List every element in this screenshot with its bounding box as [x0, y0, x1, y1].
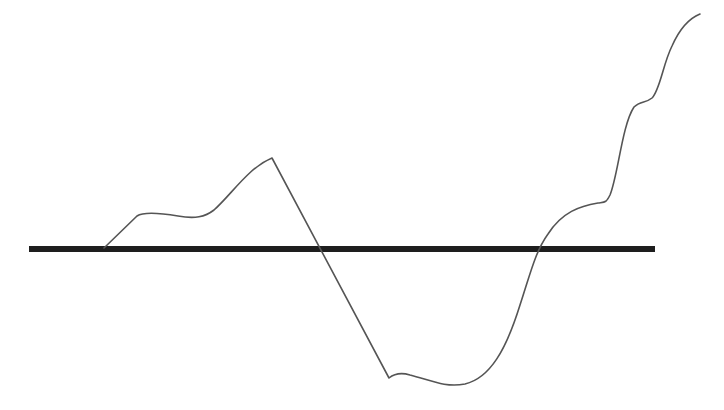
background — [0, 0, 724, 410]
line-diagram — [0, 0, 724, 410]
